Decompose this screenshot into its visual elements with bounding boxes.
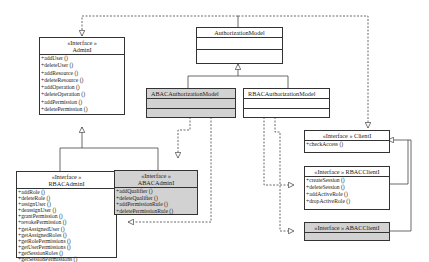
interface-client-i[interactable]: «Interface » ClientI +checkAccess () [304, 130, 390, 153]
stereotype: «Interface » [17, 173, 116, 180]
interface-header: «Interface » RBACAdminI [17, 172, 116, 189]
interface-name: AdminI [40, 46, 124, 53]
class-name: AuthorizationModel [197, 28, 282, 38]
methods-section: +addQualifier () +deleteQualifier () +ad… [115, 188, 197, 214]
method: +checkAccess () [305, 141, 389, 148]
method: +deleteSession () [305, 184, 389, 191]
method: +deleteOperation () [40, 91, 124, 98]
methods-section: +checkAccess () [305, 141, 389, 148]
class-rbac-authorization-model[interactable]: RBACAuthorizationModel [243, 88, 330, 118]
stereotype: «Interface » [115, 172, 197, 179]
method: +addPermissionRule () [115, 201, 197, 208]
class-name: RBACAuthorizationModel [244, 89, 329, 99]
method: +deletePermissionRule () [115, 208, 197, 215]
interface-abac-client-i[interactable]: «Interface » ABACClientI [304, 222, 390, 241]
interface-header: «Interface » AdminI [40, 38, 124, 55]
method: +deleteResource () [40, 77, 124, 84]
method: +deleteQualifier () [115, 195, 197, 202]
interface-header: «Interface » ABACAdminI [115, 171, 197, 188]
method: +addOperation () [40, 84, 124, 91]
method: +addPermission () [40, 99, 124, 106]
attributes-section [147, 99, 235, 109]
stereotype: «Interface » [40, 39, 124, 46]
method: +addQualifier () [115, 188, 197, 195]
operations-section [197, 50, 282, 61]
method: +dropActiveRole () [305, 198, 389, 205]
class-abac-authorization-model[interactable]: ABACAuthorizationModel [146, 88, 236, 118]
class-name: ABACAuthorizationModel [147, 89, 235, 99]
methods-section: +addRole () +deleteRole () +assignUser (… [17, 189, 116, 262]
operations-section [244, 109, 329, 118]
method: +deletePermission () [40, 106, 124, 113]
method: +getSessionPermissions () [17, 256, 116, 262]
method: +addResource () [40, 70, 124, 77]
method: +addUser () [40, 55, 124, 62]
interface-title: «Interface » RBACClientI [305, 167, 389, 177]
interface-title: «Interface » ClientI [305, 131, 389, 141]
method: +createSession () [305, 177, 389, 184]
operations-section [147, 109, 235, 118]
attributes-section [197, 38, 282, 50]
interface-name: ABACAdminI [115, 179, 197, 186]
interface-rbac-admin-i[interactable]: «Interface » RBACAdminI +addRole () +del… [16, 171, 117, 258]
interface-name: RBACAdminI [17, 180, 116, 187]
method: +deleteUser () [40, 62, 124, 69]
interface-admin-i[interactable]: «Interface » AdminI +addUser () +deleteU… [39, 37, 125, 115]
attributes-section [244, 99, 329, 109]
interface-rbac-client-i[interactable]: «Interface » RBACClientI +createSession … [304, 166, 390, 210]
interface-abac-admin-i[interactable]: «Interface » ABACAdminI +addQualifier ()… [114, 170, 198, 215]
methods-section: +addUser () +deleteUser () +addResource … [40, 55, 124, 113]
methods-section: +createSession () +deleteSession () +add… [305, 177, 389, 205]
methods-section [305, 233, 389, 241]
method: +addActiveRole () [305, 191, 389, 198]
class-authorization-model[interactable]: AuthorizationModel [196, 27, 283, 64]
interface-title: «Interface » ABACClientI [305, 223, 389, 233]
